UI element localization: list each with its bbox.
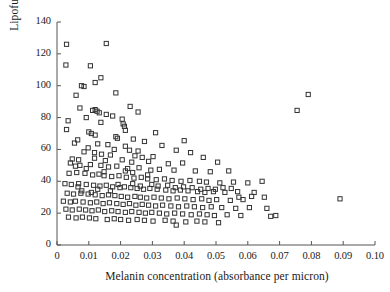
data-point-marker <box>306 92 310 96</box>
data-point-marker <box>140 155 144 159</box>
axes <box>57 22 375 245</box>
data-point-marker <box>185 204 189 208</box>
data-point-marker <box>145 196 149 200</box>
data-point-marker <box>150 210 154 214</box>
data-point-marker <box>114 91 118 95</box>
data-point-marker <box>157 211 161 215</box>
tick-marks <box>57 22 375 245</box>
data-point-marker <box>142 218 146 222</box>
data-point-marker <box>133 194 137 198</box>
data-point-marker <box>100 194 104 198</box>
data-point-marker <box>174 148 178 152</box>
data-point-marker <box>117 174 121 178</box>
data-point-marker <box>146 203 150 207</box>
data-point-marker <box>208 170 212 174</box>
data-point-marker <box>64 127 68 131</box>
data-point-marker <box>119 194 123 198</box>
data-point-marker <box>86 146 90 150</box>
data-point-marker <box>159 196 163 200</box>
data-point-marker <box>229 186 233 190</box>
data-point-marker <box>173 211 177 215</box>
data-point-marker <box>80 215 84 219</box>
data-point-marker <box>215 198 219 202</box>
data-point-marker <box>69 182 73 186</box>
data-point-marker <box>153 131 157 135</box>
data-point-marker <box>123 144 127 148</box>
data-point-marker <box>116 209 120 213</box>
data-point-marker <box>63 182 67 186</box>
data-point-marker <box>188 151 192 155</box>
data-point-marker <box>183 197 187 201</box>
data-point-marker <box>107 201 111 205</box>
data-point-marker <box>111 114 115 118</box>
data-point-marker <box>162 177 166 181</box>
data-point-marker <box>70 208 74 212</box>
data-point-marker <box>106 165 110 169</box>
data-point-marker <box>94 217 98 221</box>
data-point-marker <box>135 217 139 221</box>
data-point-marker <box>74 93 78 97</box>
data-point-marker <box>92 156 96 160</box>
y-tick-label: 80 <box>17 111 51 122</box>
data-point-marker <box>101 201 105 205</box>
data-point-marker <box>110 209 114 213</box>
data-point-marker <box>247 205 251 209</box>
data-point-marker <box>112 147 116 151</box>
data-point-marker <box>112 217 116 221</box>
data-point-marker <box>114 135 118 139</box>
data-point-marker <box>104 41 108 45</box>
data-point-marker <box>68 200 72 204</box>
data-point-marker <box>142 139 146 143</box>
data-point-marker <box>269 214 273 218</box>
y-tick-label: 0 <box>17 238 51 249</box>
data-point-marker <box>164 188 168 192</box>
data-point-marker <box>209 205 213 209</box>
data-point-marker <box>64 42 68 46</box>
data-point-marker <box>188 178 192 182</box>
data-point-marker <box>201 205 205 209</box>
data-point-marker <box>131 137 135 141</box>
data-point-marker <box>88 201 92 205</box>
data-point-marker <box>181 161 185 165</box>
data-point-marker <box>120 117 124 121</box>
data-point-marker <box>110 174 114 178</box>
data-point-marker <box>136 149 140 153</box>
y-tick-label: 60 <box>17 142 51 153</box>
data-point-marker <box>128 104 132 108</box>
data-point-marker <box>67 171 71 175</box>
data-point-marker <box>90 209 94 213</box>
y-tick-label: 120 <box>17 47 51 58</box>
data-point-marker <box>221 186 225 190</box>
y-tick-label: 40 <box>17 174 51 185</box>
data-point-marker <box>97 172 101 176</box>
data-point-marker <box>167 197 171 201</box>
data-point-marker <box>191 198 195 202</box>
data-point-marker <box>91 173 95 177</box>
data-point-marker <box>126 218 130 222</box>
y-axis-label: Lipofuscin concentration <box>8 0 24 52</box>
data-point-marker <box>175 196 179 200</box>
data-point-marker <box>192 205 196 209</box>
data-point-marker <box>127 201 131 205</box>
data-point-marker <box>176 205 180 209</box>
data-point-marker <box>104 183 108 187</box>
x-axis-label: Melanin concentration (absorbance per mi… <box>57 270 377 282</box>
data-point-marker <box>166 162 170 166</box>
data-point-marker <box>84 115 88 119</box>
data-point-marker <box>64 63 68 67</box>
data-point-marker <box>95 200 99 204</box>
y-tick-label: 140 <box>17 15 51 26</box>
data-point-marker <box>146 159 150 163</box>
data-point-marker <box>262 195 266 199</box>
data-point-marker <box>154 178 158 182</box>
data-point-marker <box>103 209 107 213</box>
data-point-marker <box>203 220 207 224</box>
data-point-marker <box>99 152 103 156</box>
data-point-marker <box>160 143 164 147</box>
data-point-marker <box>65 191 69 195</box>
data-point-marker <box>260 179 264 183</box>
data-point-marker <box>138 195 142 199</box>
data-point-marker <box>134 203 138 207</box>
data-point-marker <box>163 218 167 222</box>
data-point-marker <box>216 221 220 225</box>
